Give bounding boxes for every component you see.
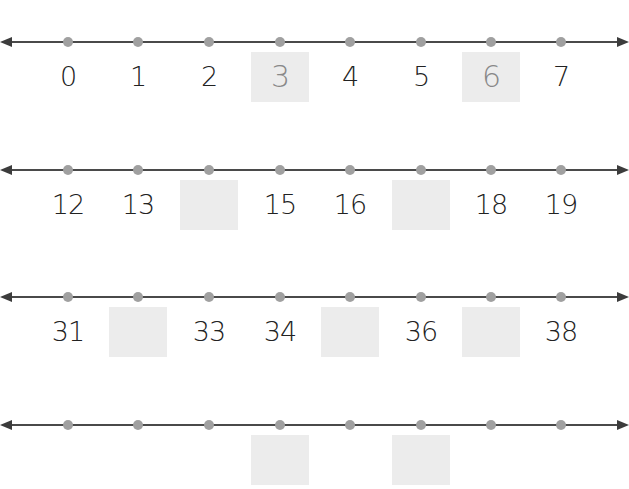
answer-box[interactable]: 6 xyxy=(462,52,520,102)
tick-dot xyxy=(204,165,214,175)
answer-box[interactable] xyxy=(392,435,450,485)
tick-dot xyxy=(416,165,426,175)
answer-box[interactable] xyxy=(109,307,167,357)
tick-dot xyxy=(275,37,285,47)
tick-dot xyxy=(486,165,496,175)
tick-dot xyxy=(556,165,566,175)
tick-dot xyxy=(63,37,73,47)
tick-dot xyxy=(345,165,355,175)
tick-dot xyxy=(416,37,426,47)
number-label: 18 xyxy=(462,180,520,230)
arrow-right-icon xyxy=(617,165,629,175)
tick-dot xyxy=(204,420,214,430)
number-label: 7 xyxy=(532,52,590,102)
tick-dot xyxy=(556,37,566,47)
tick-dot xyxy=(133,37,143,47)
tick-dot xyxy=(133,165,143,175)
tick-dot xyxy=(416,420,426,430)
number-label: 33 xyxy=(180,307,238,357)
answer-box[interactable] xyxy=(251,435,309,485)
answer-box[interactable] xyxy=(321,307,379,357)
arrow-right-icon xyxy=(617,37,629,47)
answer-box[interactable] xyxy=(180,180,238,230)
number-label: 4 xyxy=(321,52,379,102)
number-label: 0 xyxy=(39,52,97,102)
answer-box[interactable] xyxy=(392,180,450,230)
tick-dot xyxy=(345,37,355,47)
arrow-left-icon xyxy=(0,165,12,175)
number-label: 5 xyxy=(392,52,450,102)
tick-dot xyxy=(275,420,285,430)
number-line-row: 3133343638 xyxy=(0,255,629,365)
tick-dot xyxy=(556,292,566,302)
tick-dot xyxy=(486,37,496,47)
number-line-row: 121315161819 xyxy=(0,128,629,238)
tick-dot xyxy=(486,420,496,430)
number-line xyxy=(6,41,623,43)
arrow-right-icon xyxy=(617,420,629,430)
tick-dot xyxy=(133,292,143,302)
arrow-left-icon xyxy=(0,37,12,47)
number-line-row xyxy=(0,383,629,489)
number-label: 2 xyxy=(180,52,238,102)
number-line-row: 01234567 xyxy=(0,0,629,110)
tick-dot xyxy=(345,420,355,430)
number-label: 16 xyxy=(321,180,379,230)
tick-dot xyxy=(345,292,355,302)
tick-dot xyxy=(63,420,73,430)
answer-box[interactable] xyxy=(462,307,520,357)
arrow-right-icon xyxy=(617,292,629,302)
tick-dot xyxy=(275,165,285,175)
number-label: 34 xyxy=(251,307,309,357)
number-label: 31 xyxy=(39,307,97,357)
number-label: 13 xyxy=(109,180,167,230)
tick-dot xyxy=(416,292,426,302)
number-line xyxy=(6,296,623,298)
number-label: 1 xyxy=(109,52,167,102)
arrow-left-icon xyxy=(0,420,12,430)
number-label: 12 xyxy=(39,180,97,230)
tick-dot xyxy=(486,292,496,302)
tick-dot xyxy=(275,292,285,302)
number-label: 38 xyxy=(532,307,590,357)
answer-box[interactable]: 3 xyxy=(251,52,309,102)
number-label: 15 xyxy=(251,180,309,230)
tick-dot xyxy=(556,420,566,430)
number-line xyxy=(6,424,623,426)
tick-dot xyxy=(63,165,73,175)
number-label: 36 xyxy=(392,307,450,357)
tick-dot xyxy=(133,420,143,430)
tick-dot xyxy=(204,292,214,302)
tick-dot xyxy=(204,37,214,47)
number-line xyxy=(6,169,623,171)
number-label: 19 xyxy=(532,180,590,230)
tick-dot xyxy=(63,292,73,302)
arrow-left-icon xyxy=(0,292,12,302)
